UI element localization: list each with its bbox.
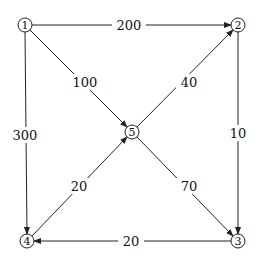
edge-1-4: 300 — [8, 32, 42, 234]
edge-weight: 300 — [13, 128, 38, 143]
edge-weight: 10 — [230, 126, 247, 141]
edge-3-4: 20 — [34, 233, 231, 249]
edge-weight: 70 — [181, 179, 198, 194]
edge-1-5: 100 — [30, 30, 127, 127]
edge-5-3: 70 — [137, 137, 233, 236]
directed-graph: 200 100 300 40 10 70 20 20 1 — [0, 0, 260, 258]
edge-weight: 20 — [123, 234, 140, 249]
node-2: 2 — [231, 18, 245, 32]
node-label: 4 — [24, 235, 31, 248]
edge-4-5: 20 — [32, 137, 127, 236]
edge-weight: 40 — [181, 75, 198, 90]
node-label: 1 — [22, 19, 29, 32]
edge-weight: 200 — [117, 18, 142, 33]
node-5: 5 — [125, 125, 139, 139]
node-3: 3 — [231, 234, 245, 248]
edge-weight: 20 — [71, 179, 88, 194]
edge-2-3: 10 — [226, 32, 250, 234]
node-label: 5 — [129, 126, 136, 139]
edge-weight: 100 — [73, 75, 98, 90]
node-label: 2 — [235, 19, 242, 32]
node-label: 3 — [235, 235, 242, 248]
edge-5-2: 40 — [137, 30, 233, 127]
edge-1-2: 200 — [32, 17, 231, 33]
node-1: 1 — [18, 18, 32, 32]
node-4: 4 — [20, 234, 34, 248]
